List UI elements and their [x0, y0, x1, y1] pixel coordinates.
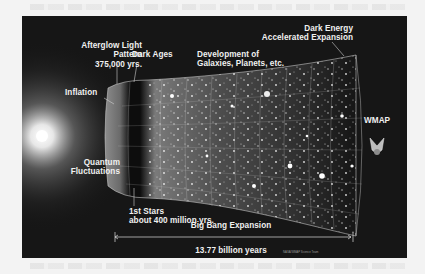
label-dark-ages: Dark Ages: [132, 50, 173, 59]
ghost-text-above: [30, 4, 405, 10]
image-credit: NASA/WMAP Science Team: [283, 250, 318, 254]
label-dark-energy-line2: Accelerated Expansion: [262, 33, 353, 42]
label-dark-energy: Dark Energy Accelerated Expansion: [262, 24, 353, 43]
label-development-line2: Galaxies, Planets, etc.: [197, 59, 284, 68]
label-development-line1: Development of: [197, 50, 284, 59]
bright-flash-icon: [36, 130, 48, 142]
label-first-stars-line1: 1st Stars: [129, 207, 214, 216]
universe-timeline-diagram: Afterglow Light Pattern 375,000 yrs. Dar…: [22, 16, 407, 258]
label-quantum-fluctuations: Quantum Fluctuations: [71, 158, 120, 177]
label-age-of-universe: 13.77 billion years: [195, 246, 267, 255]
label-dark-energy-line1: Dark Energy: [262, 24, 353, 33]
label-quantum-line2: Fluctuations: [71, 167, 120, 176]
label-quantum-line1: Quantum: [71, 158, 120, 167]
label-afterglow-line1: Afterglow Light: [81, 41, 142, 50]
label-inflation: Inflation: [65, 88, 97, 97]
label-big-bang-expansion: Big Bang Expansion: [191, 221, 272, 230]
label-development: Development of Galaxies, Planets, etc.: [197, 50, 284, 69]
label-wmap: WMAP: [364, 116, 390, 125]
ghost-text-below: [30, 263, 405, 269]
wmap-satellite-icon: [370, 138, 384, 155]
label-afterglow-line3: 375,000 yrs.: [81, 60, 142, 69]
